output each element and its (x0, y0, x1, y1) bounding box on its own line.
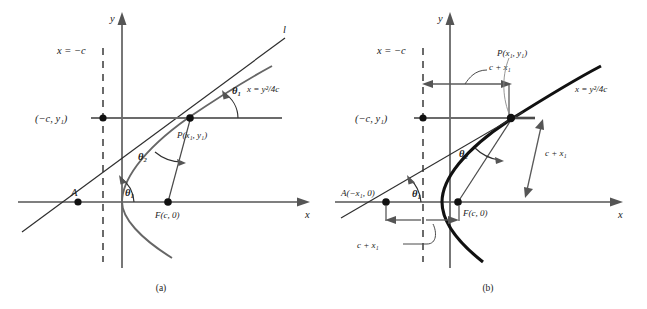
tangent-line-label-a: l (283, 24, 286, 35)
panel-a: y x x = −c (−c, y₁) x = y²/4c l P(x₁, y₁… (0, 0, 323, 309)
dimension-top-b (422, 70, 512, 115)
point-a-label-a: A (70, 187, 78, 198)
directrix-label-b: x = −c (376, 45, 406, 56)
point-p-label-b: P(x₁, y₁) (496, 48, 527, 58)
tangent-line-a (22, 38, 285, 232)
curve-equation-label-a: x = y²/4c (246, 84, 279, 94)
figure-root: y x x = −c (−c, y₁) x = y²/4c l P(x₁, y₁… (0, 0, 647, 309)
dimension-diagonal-label-b: c + x₁ (545, 148, 567, 158)
point-p-a (186, 114, 194, 122)
theta2-label-b: θ₂ (459, 148, 468, 159)
y-axis-label-a: y (109, 13, 115, 24)
parabola-curve-b (442, 66, 601, 262)
point-directrix-b (419, 114, 426, 121)
theta1-top-label-a: θ₁ (232, 85, 241, 96)
point-p-b (507, 114, 515, 122)
y-axis-label-b: y (437, 13, 443, 24)
focus-label-a: F(c, 0) (154, 210, 180, 220)
point-focus-a (164, 198, 172, 206)
point-a-b (382, 198, 390, 206)
theta1-bottom-label-a: θ₁ (125, 187, 134, 198)
point-focus-b (454, 198, 462, 206)
x-axis-label-b: x (617, 209, 623, 220)
y-axis-a (118, 12, 127, 268)
point-a-label-b: A(−x₁, 0) (340, 188, 375, 198)
directrix-point-label-b: (−c, y₁) (355, 113, 388, 125)
caption-b: (b) (482, 283, 493, 294)
point-directrix-a (99, 114, 106, 121)
curve-equation-label-b: x = y²/4c (574, 84, 607, 94)
point-a-a (74, 198, 81, 205)
directrix-point-label-a: (−c, y₁) (35, 113, 68, 125)
theta1-label-b: θ₁ (412, 188, 421, 199)
caption-a: (a) (156, 283, 167, 294)
parabola-curve-a (122, 66, 272, 258)
focus-label-b: F(c, 0) (462, 208, 488, 218)
x-axis-label-a: x (304, 209, 310, 220)
theta2-label-a: θ₂ (138, 151, 147, 162)
x-axis-b (335, 198, 623, 207)
dimension-bottom-label-b: c + x₁ (357, 240, 379, 250)
dimension-diagonal-b (524, 119, 544, 198)
directrix-label-a: x = −c (56, 45, 86, 56)
point-p-label-a: P(x₁, y₁) (176, 130, 207, 140)
panel-b: c + x₁ c + x₁ c + x₁ (323, 0, 647, 309)
